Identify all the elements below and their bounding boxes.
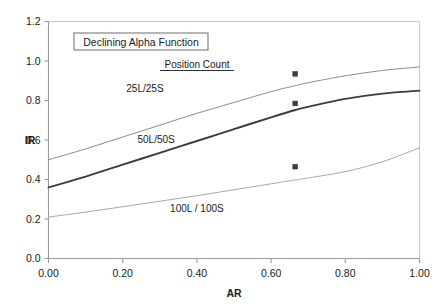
series-label-1: 50L/50S: [137, 134, 175, 145]
data-point-marker: [293, 71, 298, 76]
chart-title-box: Declining Alpha Function: [74, 33, 208, 50]
x-tick-label: 0.40: [187, 267, 208, 279]
x-tick-label: 0.20: [112, 267, 133, 279]
data-point-marker: [293, 101, 298, 106]
series-label-0: 25L/25S: [126, 83, 164, 94]
x-tick-label: 1.00: [409, 267, 430, 279]
chart-title: Declining Alpha Function: [83, 36, 199, 48]
y-tick-label: 0.2: [26, 213, 41, 225]
y-tick-label: 0.0: [26, 252, 41, 264]
x-tick-label: 0.80: [335, 267, 356, 279]
declining-alpha-function-chart: 0.000.200.400.600.801.00 0.00.20.40.60.8…: [0, 0, 441, 307]
y-axis-title: IR: [25, 134, 36, 146]
x-tick-label: 0.00: [38, 267, 59, 279]
y-tick-label: 0.4: [26, 173, 41, 185]
x-tick-label: 0.60: [261, 267, 282, 279]
series-label-2: 100L / 100S: [170, 203, 224, 214]
x-axis-title: AR: [226, 287, 242, 299]
data-point-marker: [293, 164, 298, 169]
legend-heading-group: Position Count: [160, 59, 234, 71]
legend-heading-label: Position Count: [164, 59, 229, 70]
y-tick-label: 1.0: [26, 55, 41, 67]
y-tick-label: 0.8: [26, 94, 41, 106]
chart-background: [0, 0, 441, 307]
chart-figure: 0.000.200.400.600.801.00 0.00.20.40.60.8…: [0, 0, 441, 307]
y-tick-label: 1.2: [26, 15, 41, 27]
